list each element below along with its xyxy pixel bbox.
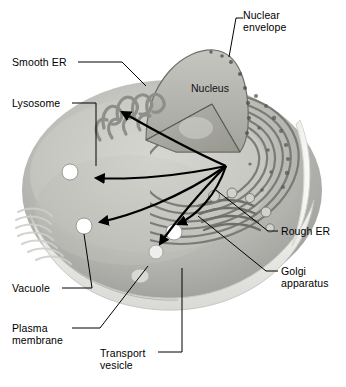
lysosome-vesicle: [62, 164, 78, 180]
label-transport-vesicle: Transport vesicle: [100, 348, 145, 371]
cell-diagram-figure: Nucleus Nuclear envelope Smooth ER Lysos…: [0, 0, 346, 387]
nucleus: [146, 50, 248, 152]
label-smooth-er: Smooth ER: [12, 57, 67, 69]
nucleus-label: Nucleus: [191, 82, 229, 94]
leader-smooth-er: [78, 62, 146, 86]
label-lysosome: Lysosome: [12, 98, 60, 110]
leader-nuclear-envelope: [229, 18, 243, 57]
label-rough-er: Rough ER: [281, 226, 330, 238]
label-golgi-apparatus: Golgi apparatus: [281, 266, 329, 289]
label-vacuole: Vacuole: [12, 283, 50, 295]
vacuole-vesicle: [76, 218, 92, 234]
label-plasma-membrane: Plasma membrane: [12, 323, 63, 346]
transport-vesicle-2: [149, 245, 163, 259]
label-nuclear-envelope: Nuclear envelope: [243, 10, 286, 33]
